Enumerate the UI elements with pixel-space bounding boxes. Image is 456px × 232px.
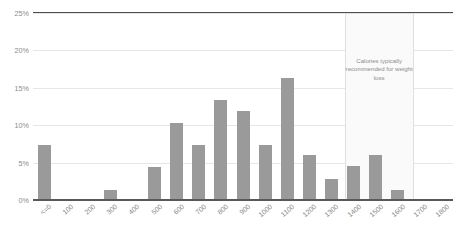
bar [303, 155, 316, 200]
bar [369, 155, 382, 200]
bar [148, 167, 161, 200]
bar [214, 100, 227, 200]
x-axis-tick-label: 1100 [280, 203, 296, 218]
y-axis-tick-label: 10% [2, 121, 29, 130]
x-axis-tick-label: 1600 [390, 203, 406, 218]
x-axis-tick-label: 1200 [301, 203, 317, 218]
plot-area: Calories typically recommended for weigh… [33, 13, 453, 200]
x-axis-baseline [33, 199, 453, 201]
y-axis-tick-label: 25% [2, 9, 29, 18]
x-axis-tick-label: 700 [194, 203, 207, 216]
x-axis-tick-label: 300 [105, 203, 118, 216]
x-axis-tick-label: 500 [150, 203, 163, 216]
bar [192, 145, 205, 200]
x-axis-tick-label: 1700 [412, 203, 428, 218]
y-axis-tick-label: 20% [2, 46, 29, 55]
x-axis-tick-label: <=0 [39, 203, 53, 216]
y-axis-tick-label: 15% [2, 83, 29, 92]
bar [347, 166, 360, 200]
x-axis-tick-label: 800 [216, 203, 229, 216]
calorie-distribution-histogram: Calories typically recommended for weigh… [0, 0, 456, 232]
bar [325, 179, 338, 200]
y-axis-tick-label: 5% [2, 158, 29, 167]
x-axis-tick-label: 600 [172, 203, 185, 216]
x-axis-tick-label: 1500 [368, 203, 384, 218]
band-annotation-label: Calories typically recommended for weigh… [342, 57, 416, 82]
x-axis-tick-label: 100 [61, 203, 74, 216]
bar [237, 111, 250, 200]
x-axis-tick-label: 1000 [257, 203, 273, 218]
x-axis-tick-label: 200 [83, 203, 96, 216]
x-axis-tick-label: 1400 [346, 203, 362, 218]
bar [259, 145, 272, 200]
x-axis-tick-label: 1300 [323, 203, 339, 218]
x-axis-tick-label: 400 [128, 203, 141, 216]
bar [170, 123, 183, 200]
x-axis-tick-label: 900 [238, 203, 251, 216]
y-axis-tick-label: 0% [2, 196, 29, 205]
x-axis-tick-label: 1800 [434, 203, 450, 218]
bar [38, 145, 51, 200]
bar [281, 78, 294, 200]
